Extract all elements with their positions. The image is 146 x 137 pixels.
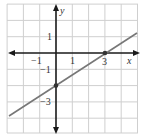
- y-tick-label-neg1: −1: [40, 64, 51, 75]
- plotted-line: [9, 33, 137, 116]
- y-tick-label-neg3: −3: [40, 96, 51, 107]
- x-intercept-point: [103, 51, 108, 56]
- x-tick-label-3: 3: [102, 56, 107, 67]
- y-tick-label-1: 1: [47, 31, 52, 42]
- x-tick-label-1: 1: [70, 55, 75, 66]
- x-axis-left-arrow-icon: [8, 50, 15, 56]
- coordinate-plane: y x −1 1 3 1 −1 −3: [0, 0, 146, 137]
- grid: [7, 4, 138, 133]
- y-axis-label: y: [59, 5, 65, 16]
- y-intercept-point: [54, 83, 59, 88]
- y-axis-up-arrow-icon: [53, 4, 59, 11]
- x-axis-right-arrow-icon: [133, 50, 140, 56]
- x-axis-label: x: [126, 55, 132, 66]
